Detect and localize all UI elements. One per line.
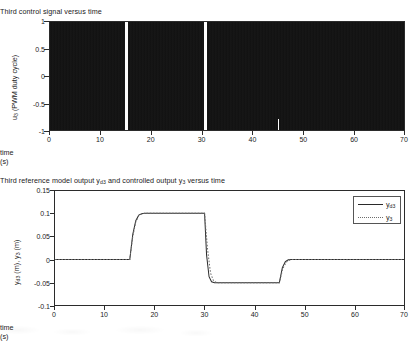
top-xtick-10: 10 [96, 136, 104, 143]
legend-entry-y3[interactable]: y3 [354, 211, 400, 224]
bottom-xtickmark-70 [404, 306, 405, 310]
top-xtickmark-0 [49, 131, 50, 135]
top-ylabel-rest: (PWM duty cycle) [10, 55, 19, 113]
top-xtickmark-50 [303, 131, 304, 135]
legend-label-yd3: yd3 [386, 198, 395, 211]
background-compression-artifact [0, 318, 418, 346]
top-xtick-30: 30 [198, 136, 206, 143]
bottom-ytick-m0p1: -0.1 [20, 303, 50, 310]
top-y-axis-label: u3 (PWM duty cycle) [10, 55, 19, 120]
legend-label-y3: y3 [386, 211, 392, 224]
bottom-xtick-0: 0 [52, 311, 56, 318]
top-ytick-m0p5: -0.5 [23, 100, 45, 107]
top-xtick-20: 20 [147, 136, 155, 143]
top-xtick-60: 60 [350, 136, 358, 143]
bottom-xtickmark-50 [305, 306, 306, 310]
trace-y3 [55, 213, 404, 282]
top-xtickmark-70 [404, 131, 405, 135]
bottom-xtickmark-40 [255, 306, 256, 310]
bottom-xtick-10: 10 [100, 311, 108, 318]
pwm-band-segment-2 [207, 22, 405, 130]
top-xtick-0: 0 [47, 136, 51, 143]
bottom-xtick-60: 60 [351, 311, 359, 318]
pwm-band-segment-0 [50, 22, 126, 130]
bottom-xtickmark-0 [54, 306, 55, 310]
bottom-title-part3: versus time [185, 176, 225, 185]
bottom-ytick-m0p05: -0.05 [20, 279, 50, 286]
top-xtick-70: 70 [400, 136, 408, 143]
top-ytick-0p5: 0.5 [23, 45, 45, 52]
bottom-xtick-20: 20 [150, 311, 158, 318]
bottom-ytick-0p1: 0.1 [20, 210, 50, 217]
trace-yd3 [55, 213, 404, 282]
bottom-plot-area[interactable]: yd3 y3 [54, 190, 405, 306]
bottom-xtick-50: 50 [301, 311, 309, 318]
bottom-title-part1: Third reference model output y [0, 176, 100, 185]
bottom-xtick-70: 70 [400, 311, 408, 318]
legend-yd3-sub: d3 [390, 203, 396, 209]
step-response-traces [55, 191, 404, 305]
bottom-xtickmark-60 [355, 306, 356, 310]
top-xtick-50: 50 [299, 136, 307, 143]
top-xtickmark-40 [252, 131, 253, 135]
bottom-ytick-0: 0 [20, 256, 50, 263]
bottom-ylabel-p3: (m) [12, 240, 21, 253]
top-xtickmark-30 [202, 131, 203, 135]
bottom-title-part2: and controlled output y [106, 176, 182, 185]
top-xtickmark-10 [100, 131, 101, 135]
pwm-notch-t45 [278, 119, 279, 131]
bottom-xtick-40: 40 [251, 311, 259, 318]
bottom-ytick-0p15: 0.15 [20, 187, 50, 194]
top-xtickmark-60 [354, 131, 355, 135]
legend-y3-sub: 3 [390, 216, 393, 222]
matlab-figure: Third control signal versus time u3 (PWM… [0, 0, 418, 346]
bottom-xtickmark-20 [154, 306, 155, 310]
top-xtick-40: 40 [248, 136, 256, 143]
bottom-ytick-0p05: 0.05 [20, 233, 50, 240]
bottom-xtickmark-10 [104, 306, 105, 310]
legend-line-sample-yd3 [358, 204, 383, 205]
bottom-xtick-30: 30 [200, 311, 208, 318]
top-ylabel-base: u [10, 116, 19, 120]
bottom-xtickmark-30 [204, 306, 205, 310]
top-ylabel-sub: 3 [13, 113, 19, 116]
top-ytick-m1: -1 [23, 128, 45, 135]
top-xtickmark-20 [151, 131, 152, 135]
legend[interactable]: yd3 y3 [353, 196, 401, 224]
top-ytick-0: 0 [23, 73, 45, 80]
pwm-band-segment-1 [128, 22, 205, 130]
top-plot-area[interactable] [49, 21, 405, 131]
pwm-gap-t15 [125, 22, 127, 130]
legend-entry-yd3[interactable]: yd3 [354, 198, 400, 211]
top-ytick-1: 1 [23, 18, 45, 25]
legend-line-sample-y3 [358, 217, 383, 218]
pwm-gap-t30 [204, 22, 207, 130]
bottom-ylabel-s2: 3 [15, 252, 21, 255]
